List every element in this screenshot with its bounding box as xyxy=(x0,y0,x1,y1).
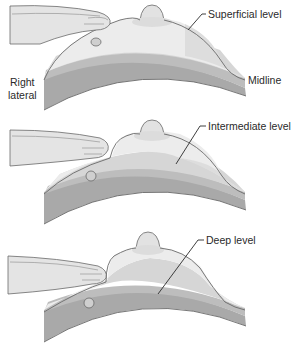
lump xyxy=(91,38,101,46)
areola xyxy=(134,131,170,141)
panel-deep: Deep level xyxy=(8,232,256,342)
panel-intermediate: Intermediate level xyxy=(10,120,291,224)
areola xyxy=(132,245,164,255)
illustration-svg: Superficial level Right lateral Midline … xyxy=(0,0,293,343)
label-midline: Midline xyxy=(248,74,281,86)
label-lateral: lateral xyxy=(8,89,37,101)
examiner-hand xyxy=(10,130,108,166)
label-superficial-level: Superficial level xyxy=(208,8,282,20)
lump xyxy=(84,298,94,308)
lump xyxy=(86,171,96,181)
breast-palpation-figure: Superficial level Right lateral Midline … xyxy=(0,0,293,343)
label-right: Right xyxy=(10,76,35,88)
label-deep-level: Deep level xyxy=(206,234,256,246)
label-intermediate-level: Intermediate level xyxy=(208,120,291,132)
panel-superficial: Superficial level Right lateral Midline xyxy=(8,5,282,110)
